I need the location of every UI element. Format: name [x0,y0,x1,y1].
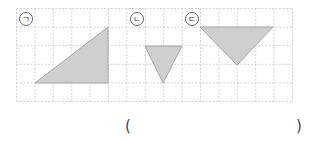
triangle-label: ㄷ [188,14,196,24]
answer-open-paren: ( [125,117,131,135]
triangle-1 [35,27,108,83]
answer-close-paren: ) [296,117,302,135]
triangle-label: ㄴ [133,14,141,24]
circled-labels: ㄱㄴㄷ [20,13,199,26]
triangle-grid-figure: ㄱㄴㄷ [0,0,313,110]
answer-blank[interactable] [140,117,290,135]
triangles [35,27,273,83]
triangle-label: ㄱ [22,14,30,24]
